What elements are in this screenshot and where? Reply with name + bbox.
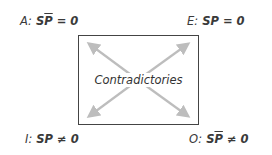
formula-a-rest: = 0 bbox=[53, 14, 79, 28]
letter-i: I: bbox=[25, 132, 32, 146]
letter-o: O: bbox=[189, 132, 202, 146]
formula-a-bar: P bbox=[44, 14, 52, 28]
formula-i-base: SP bbox=[36, 132, 53, 146]
contradictories-label-wrap: Contradictories bbox=[78, 73, 199, 87]
contradictories-label: Contradictories bbox=[93, 73, 185, 87]
proposition-a-label: A: SP = 0 bbox=[20, 14, 78, 28]
formula-o-bar: P bbox=[214, 132, 222, 146]
formula-o-rest: ≠ 0 bbox=[223, 132, 249, 146]
formula-e-rest: = 0 bbox=[219, 14, 245, 28]
formula-i-rest: ≠ 0 bbox=[53, 132, 79, 146]
letter-e: E: bbox=[187, 14, 198, 28]
proposition-i-label: I: SP ≠ 0 bbox=[25, 132, 79, 146]
letter-a: A: bbox=[20, 14, 32, 28]
proposition-e-label: E: SP = 0 bbox=[187, 14, 245, 28]
formula-e-base: SP bbox=[202, 14, 219, 28]
proposition-o-label: O: SP ≠ 0 bbox=[189, 132, 249, 146]
